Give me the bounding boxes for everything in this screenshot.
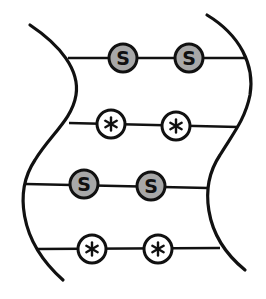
rungs-group — [26, 58, 247, 249]
star-node — [144, 235, 172, 263]
s-label: S — [77, 173, 91, 195]
s-node: S — [137, 172, 165, 200]
left-strand — [23, 25, 76, 280]
s-label: S — [144, 175, 158, 197]
s-label: S — [182, 47, 196, 69]
star-node — [97, 110, 125, 138]
diagram-svg: SSSS — [0, 0, 266, 299]
ladder-diagram: SSSS — [0, 0, 266, 299]
s-node: S — [109, 44, 137, 72]
rung-4 — [36, 248, 220, 249]
rung-2 — [69, 123, 238, 127]
star-node — [162, 112, 190, 140]
s-label: S — [116, 47, 130, 69]
s-node: S — [175, 44, 203, 72]
right-strand — [207, 15, 251, 270]
star-node — [78, 235, 106, 263]
s-node: S — [70, 170, 98, 198]
nodes-group: SSSS — [70, 44, 203, 263]
rung-3 — [26, 184, 208, 188]
